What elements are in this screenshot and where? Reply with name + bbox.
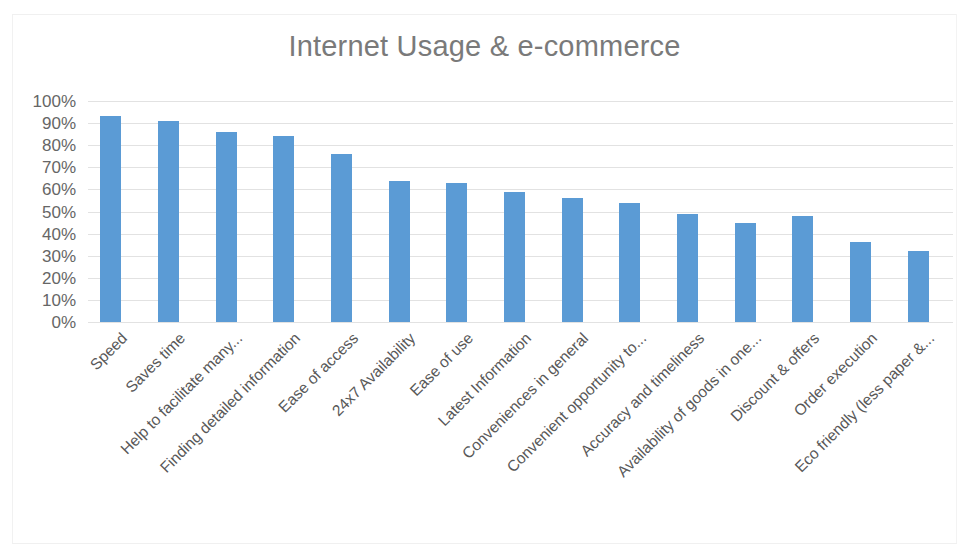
bar[interactable] [562, 198, 583, 322]
chart-title: Internet Usage & e-commerce [0, 30, 969, 63]
x-axis: SpeedSaves timeHelp to facilitate many..… [88, 322, 953, 552]
y-axis-tick-label: 10% [16, 292, 76, 309]
y-axis-tick-label: 20% [16, 270, 76, 287]
bar[interactable] [389, 181, 410, 322]
bar[interactable] [158, 121, 179, 322]
bar[interactable] [446, 183, 467, 322]
bar[interactable] [216, 132, 237, 322]
gridline [88, 101, 953, 102]
bar[interactable] [677, 214, 698, 322]
bar[interactable] [331, 154, 352, 322]
bar[interactable] [850, 242, 871, 322]
bar[interactable] [735, 223, 756, 322]
gridline [88, 123, 953, 124]
y-axis-tick-label: 60% [16, 181, 76, 198]
y-axis-tick-label: 100% [16, 93, 76, 110]
y-axis-tick-label: 80% [16, 137, 76, 154]
chart-frame-border-left [12, 14, 13, 544]
y-axis-tick-label: 90% [16, 115, 76, 132]
chart-container: Internet Usage & e-commerce 100%90%80%70… [0, 0, 969, 560]
bar[interactable] [908, 251, 929, 322]
y-axis-tick-label: 0% [16, 314, 76, 331]
y-axis-tick-label: 70% [16, 159, 76, 176]
plot-area [88, 101, 953, 322]
bar[interactable] [273, 136, 294, 322]
y-axis-tick-label: 50% [16, 204, 76, 221]
y-axis-tick-label: 30% [16, 248, 76, 265]
bar[interactable] [619, 203, 640, 322]
y-axis-tick-label: 40% [16, 226, 76, 243]
bar[interactable] [100, 116, 121, 322]
x-axis-category-label: Speed [87, 330, 130, 373]
chart-frame-border-right [956, 14, 957, 544]
y-axis: 100%90%80%70%60%50%40%30%20%10%0% [14, 101, 76, 322]
bar[interactable] [792, 216, 813, 322]
chart-frame-border-top [12, 14, 957, 15]
bar[interactable] [504, 192, 525, 322]
